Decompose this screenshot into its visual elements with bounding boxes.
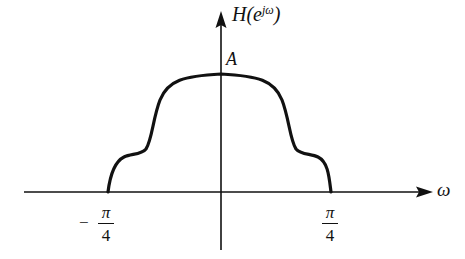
- y-axis-label: H(ejω): [232, 4, 280, 24]
- tick-left-sign: −: [79, 213, 89, 233]
- tick-label-pi-over-4: π 4: [322, 204, 338, 244]
- tick-right-numerator: π: [324, 204, 337, 223]
- frequency-response-diagram: [0, 0, 465, 259]
- tick-label-neg-pi-over-4: π 4: [98, 204, 114, 244]
- tick-left-denominator: 4: [102, 224, 111, 244]
- y-axis-label-superscript: jω: [262, 3, 274, 17]
- response-curve: [108, 74, 331, 192]
- x-axis-label: ω: [437, 180, 450, 199]
- tick-right-denominator: 4: [326, 224, 335, 244]
- y-axis-label-close: ): [274, 3, 281, 25]
- tick-left-numerator: π: [100, 204, 113, 223]
- y-axis-label-main: H(e: [232, 3, 262, 25]
- peak-label: A: [226, 50, 237, 68]
